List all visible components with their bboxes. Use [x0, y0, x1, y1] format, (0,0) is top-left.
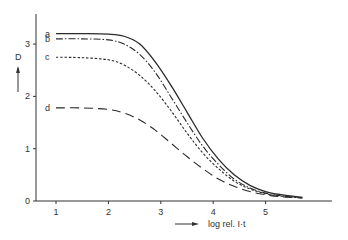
x-tick-label: 3 — [158, 207, 163, 217]
curve-labels: abcd — [45, 29, 50, 113]
curve-a — [56, 34, 302, 198]
x-tick-label: 2 — [106, 207, 111, 217]
y-ticks: 0123 — [25, 39, 36, 206]
x-tick-label: 1 — [54, 207, 59, 217]
y-tick-label: 3 — [25, 39, 30, 49]
y-axis-title: D — [15, 52, 22, 62]
y-tick-label: 1 — [25, 144, 30, 154]
curve-label-d: d — [45, 103, 50, 113]
x-tick-label: 5 — [263, 207, 268, 217]
x-axis-arrow-icon — [175, 222, 199, 226]
curve-c — [56, 57, 302, 198]
x-tick-label: 4 — [211, 207, 216, 217]
y-tick-label: 2 — [25, 91, 30, 101]
x-axis-title: log rel. I·t — [208, 219, 246, 229]
y-axis-arrow-icon — [16, 66, 20, 92]
curve-label-b: b — [45, 34, 50, 44]
curve-label-c: c — [45, 52, 50, 62]
curves — [56, 34, 302, 198]
density-curve-chart: 0123 12345 D log rel. I·t abcd — [0, 0, 348, 240]
curve-b — [56, 39, 302, 198]
x-ticks: 12345 — [54, 201, 269, 217]
y-tick-label: 0 — [25, 196, 30, 206]
